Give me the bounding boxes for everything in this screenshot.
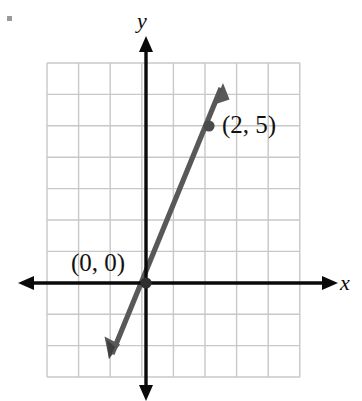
point-marker-2-5 xyxy=(203,120,214,131)
point-2-5-label: (2, 5) xyxy=(222,112,276,137)
point-marker-origin xyxy=(140,277,151,288)
coordinate-plane-svg xyxy=(0,0,362,401)
origin-point-label: (0, 0) xyxy=(71,250,125,275)
x-axis-left-arrowhead xyxy=(18,276,34,290)
y-axis-bottom-arrowhead xyxy=(139,385,153,401)
y-axis-top-arrowhead xyxy=(139,36,153,52)
x-axis-label: x xyxy=(340,272,350,294)
y-axis-label: y xyxy=(137,10,147,32)
x-axis-right-arrowhead xyxy=(322,276,338,290)
graph-figure: y x (0, 0) (2, 5) xyxy=(0,0,362,401)
